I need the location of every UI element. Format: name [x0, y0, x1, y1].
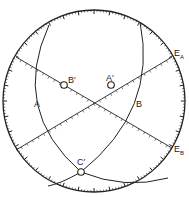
stereonet-svg: A B B′ A′ C′ E A E B: [0, 0, 189, 197]
great-circle-a: [35, 25, 168, 183]
great-circle-label-a: A: [34, 99, 40, 109]
great-circles: [35, 22, 168, 186]
svg-text:B: B: [180, 150, 184, 156]
point-marker: [61, 82, 68, 89]
end-label-eb: E B: [174, 144, 184, 156]
end-label-ea: E A: [174, 48, 184, 60]
point-marker: [78, 169, 85, 176]
svg-text:A: A: [180, 54, 184, 60]
primitive-circle: [3, 10, 185, 192]
stereonet-diagram: A B B′ A′ C′ E A E B: [0, 0, 189, 197]
point-label-b-prime: B′: [68, 75, 76, 85]
primitive-circle-ticks: [3, 10, 185, 192]
point-label-a-prime: A′: [106, 73, 114, 83]
point-label-c-prime: C′: [77, 157, 85, 167]
great-circle-label-b: B: [136, 99, 142, 109]
